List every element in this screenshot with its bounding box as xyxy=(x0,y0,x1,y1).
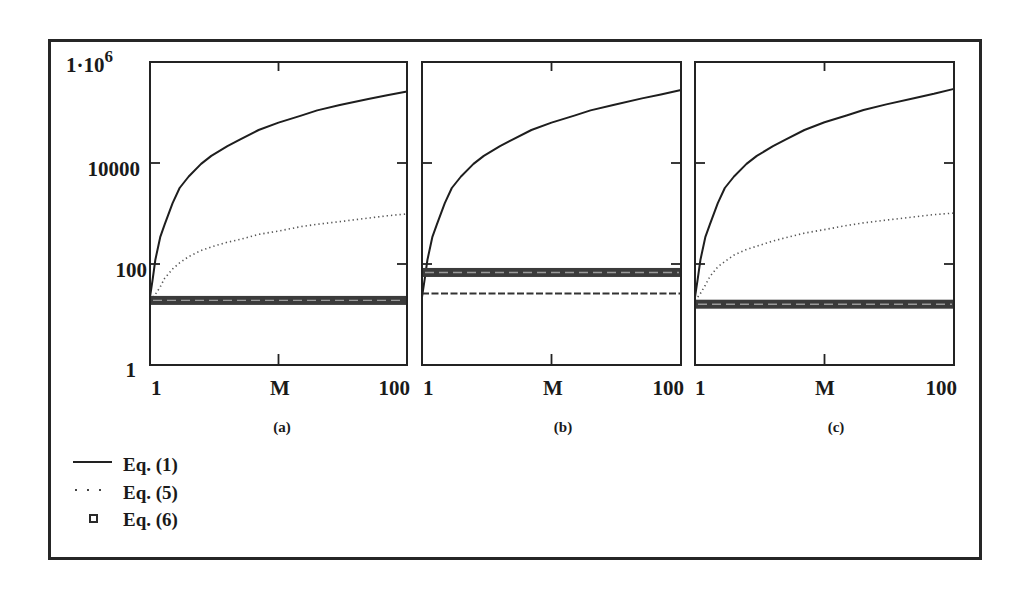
x-tick-label-left-b: 1 xyxy=(423,377,434,399)
y-tick-exponent: 6 xyxy=(105,47,114,66)
legend-dotted-line-icon xyxy=(99,489,101,491)
x-tick-label-right-c: 100 xyxy=(897,377,957,399)
eq5-dotted-curve xyxy=(695,213,954,300)
y-tick-label-1e6: 1·106 xyxy=(66,54,113,76)
y-tick-label-100: 100 xyxy=(87,259,147,281)
x-tick-label-right-b: 100 xyxy=(624,377,684,399)
legend-label-eq1: Eq. (1) xyxy=(123,454,178,476)
plot-border xyxy=(422,62,681,365)
x-tick-label-right-a: 100 xyxy=(350,377,410,399)
y-tick-label-10000: 10000 xyxy=(60,158,140,180)
x-tick-label-left-a: 1 xyxy=(151,377,162,399)
panel-caption-b: (b) xyxy=(543,418,583,436)
x-tick-label-left-c: 1 xyxy=(695,377,706,399)
plot-area-a xyxy=(149,61,408,366)
panel-caption-a: (a) xyxy=(262,418,302,436)
legend-dotted-line-icon xyxy=(75,489,77,491)
panel-caption-c: (c) xyxy=(816,418,856,436)
plot-area-c xyxy=(694,61,955,366)
plot-area-b xyxy=(421,61,682,366)
eq5-dotted-curve xyxy=(150,214,407,301)
eq1-solid-curve xyxy=(695,89,954,297)
legend-dotted-line-icon xyxy=(87,489,89,491)
legend-label-eq6: Eq. (6) xyxy=(123,509,178,531)
x-axis-label-c: M xyxy=(805,377,845,399)
plot-border xyxy=(695,62,954,365)
plot-panel-c xyxy=(694,61,955,366)
plot-border xyxy=(150,62,407,365)
x-axis-label-a: M xyxy=(260,377,300,399)
eq1-solid-curve xyxy=(422,90,681,297)
x-axis-label-b: M xyxy=(533,377,573,399)
y-tick-base: 1·10 xyxy=(66,53,105,77)
legend-label-eq5: Eq. (5) xyxy=(123,482,178,504)
legend-square-marker-icon xyxy=(89,514,98,523)
legend-solid-line-icon xyxy=(73,461,112,463)
plot-panel-a xyxy=(149,61,408,366)
plot-panel-b xyxy=(421,61,682,366)
eq1-solid-curve xyxy=(150,92,407,298)
y-tick-label-1: 1 xyxy=(110,359,136,381)
